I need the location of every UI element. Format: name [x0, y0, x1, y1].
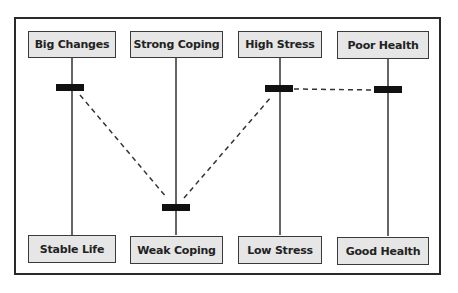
top-box-strong-coping: Strong Coping [130, 31, 223, 58]
bottom-box-stable-life: Stable Life [28, 235, 116, 263]
marker-4 [374, 86, 402, 93]
bottom-box-low-stress: Low Stress [238, 236, 322, 264]
connector-1-2 [80, 95, 167, 198]
top-box-big-changes: Big Changes [28, 31, 116, 58]
connector-2-3 [184, 96, 272, 198]
marker-2 [162, 204, 190, 211]
top-box-poor-health: Poor Health [337, 31, 429, 59]
top-box-high-stress: High Stress [238, 31, 322, 58]
marker-1 [56, 84, 84, 91]
marker-3 [265, 85, 293, 92]
bottom-box-good-health: Good Health [337, 237, 429, 265]
bottom-box-weak-coping: Weak Coping [130, 236, 223, 264]
connector-3-4 [294, 89, 374, 90]
